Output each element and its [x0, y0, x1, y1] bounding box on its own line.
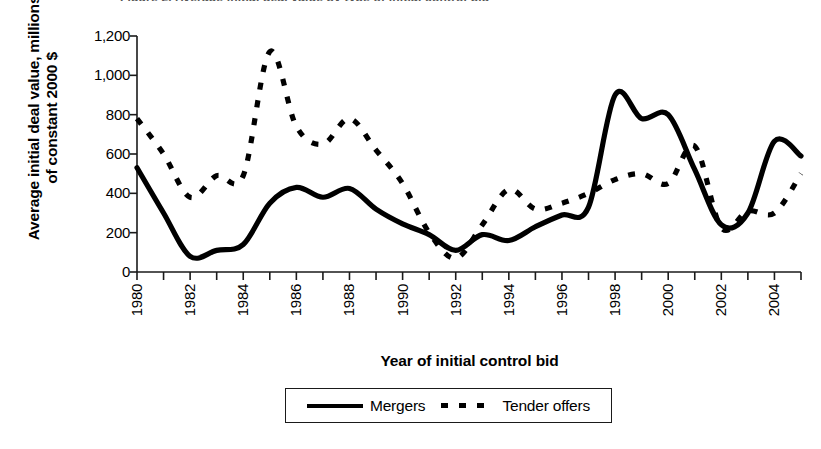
- figure-title-cutoff: Figure 2. Average initial deal value by …: [120, 0, 540, 1]
- series-line-tender-offers: [137, 51, 801, 258]
- x-tick-label: 1996: [554, 284, 569, 316]
- x-tick-marks: [137, 272, 801, 280]
- y-tick-label: 200: [70, 225, 130, 240]
- x-tick-label: 2004: [766, 284, 781, 316]
- y-tick-labels: 1,2001,0008006004002000: [68, 0, 130, 300]
- axis-lines: [137, 36, 801, 272]
- chart-legend: Mergers Tender offers: [285, 388, 612, 423]
- y-tick-label: 1,200: [70, 28, 130, 43]
- y-tick-label: 600: [70, 146, 130, 161]
- y-tick-marks: [130, 36, 137, 272]
- legend-label-mergers: Mergers: [370, 397, 425, 415]
- x-tick-label: 1982: [182, 284, 197, 316]
- x-tick-label: 1998: [607, 284, 622, 316]
- legend-entry-mergers: Mergers: [307, 397, 425, 415]
- dashed-line-swatch: [439, 403, 495, 408]
- x-tick-label: 2002: [713, 284, 728, 316]
- y-tick-label: 400: [70, 185, 130, 200]
- x-tick-label: 1994: [501, 284, 516, 316]
- legend-entry-tender-offers: Tender offers: [439, 397, 590, 415]
- x-tick-label: 1980: [129, 284, 144, 316]
- x-tick-label: 1988: [341, 284, 356, 316]
- x-axis-title: Year of initial control bid: [137, 352, 802, 370]
- y-tick-label: 800: [70, 107, 130, 122]
- x-tick-label: 1990: [395, 284, 410, 316]
- x-tick-label: 1984: [235, 284, 250, 316]
- y-tick-label: 1,000: [70, 67, 130, 82]
- x-tick-label: 1986: [288, 284, 303, 316]
- y-axis-title: Average initial deal value, millions of …: [25, 0, 61, 243]
- series-line-mergers: [137, 91, 801, 258]
- solid-line-swatch: [307, 404, 363, 408]
- legend-label-tender-offers: Tender offers: [502, 397, 590, 415]
- y-tick-label: 0: [70, 264, 130, 279]
- chart-figure: Figure 2. Average initial deal value by …: [0, 0, 821, 449]
- x-tick-label: 1992: [448, 284, 463, 316]
- x-tick-label: 2000: [660, 284, 675, 316]
